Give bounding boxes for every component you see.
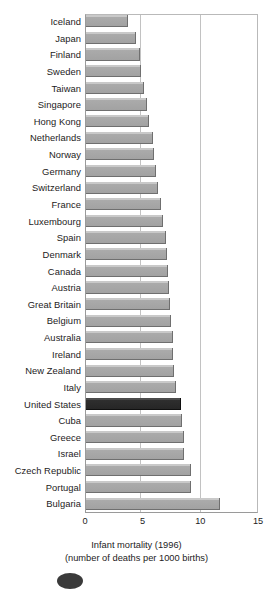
category-label: Portugal xyxy=(46,480,81,497)
bar-row: Netherlands xyxy=(0,130,273,147)
bar xyxy=(86,198,161,210)
bar-rows: IcelandJapanFinlandSwedenTaiwanSingapore… xyxy=(0,14,273,513)
bar xyxy=(86,82,144,94)
bar xyxy=(86,331,173,343)
x-tick-15: 15 xyxy=(238,516,278,526)
category-label: Finland xyxy=(50,47,81,64)
bar xyxy=(86,464,191,476)
category-label: Sweden xyxy=(47,64,81,81)
category-label: Bulgaria xyxy=(46,496,81,513)
bar xyxy=(86,215,163,227)
category-label: Iceland xyxy=(50,14,81,31)
bar-row: Australia xyxy=(0,330,273,347)
category-label: Australia xyxy=(44,330,81,347)
bar-row: Czech Republic xyxy=(0,463,273,480)
category-label: Singapore xyxy=(38,97,81,114)
caption-line-2: (number of deaths per 1000 births) xyxy=(0,552,273,565)
bar-row: Belgium xyxy=(0,313,273,330)
bar xyxy=(86,32,136,44)
bar-row: Israel xyxy=(0,446,273,463)
bar-row: Germany xyxy=(0,164,273,181)
category-label: France xyxy=(52,197,81,214)
category-label: Luxembourg xyxy=(28,214,81,231)
caption-line-1: Infant mortality (1996) xyxy=(0,539,273,552)
bar-highlighted xyxy=(86,398,181,410)
x-tick-5: 5 xyxy=(123,516,163,526)
bar-row: Iceland xyxy=(0,14,273,31)
bar xyxy=(86,281,169,293)
x-axis-tick-labels: 051015 xyxy=(0,516,273,530)
category-label: Italy xyxy=(64,380,81,397)
category-label: Czech Republic xyxy=(15,463,81,480)
x-tick-10: 10 xyxy=(180,516,220,526)
bar xyxy=(86,348,173,360)
bar xyxy=(86,148,154,160)
category-label: Taiwan xyxy=(52,81,81,98)
category-label: Canada xyxy=(48,264,81,281)
bar xyxy=(86,315,171,327)
bar xyxy=(86,115,149,127)
category-label: Greece xyxy=(50,430,81,447)
bar xyxy=(86,381,176,393)
bar-row: Cuba xyxy=(0,413,273,430)
category-label: Spain xyxy=(57,230,81,247)
bar-row: Finland xyxy=(0,47,273,64)
category-label: Israel xyxy=(58,446,81,463)
bar-row: Canada xyxy=(0,264,273,281)
bar-row: Greece xyxy=(0,430,273,447)
bar xyxy=(86,298,170,310)
category-label: Netherlands xyxy=(30,130,81,147)
bar-row: Hong Kong xyxy=(0,114,273,131)
category-label: New Zealand xyxy=(25,363,81,380)
bar-row: Great Britain xyxy=(0,297,273,314)
category-label: Belgium xyxy=(47,313,81,330)
bar-row: Portugal xyxy=(0,480,273,497)
category-label: Ireland xyxy=(52,347,81,364)
bar-row: Ireland xyxy=(0,347,273,364)
bar-row: Spain xyxy=(0,230,273,247)
bar xyxy=(86,48,140,60)
category-label: Japan xyxy=(55,31,81,48)
category-label: Austria xyxy=(51,280,81,297)
bar-row: United States xyxy=(0,397,273,414)
category-label: Germany xyxy=(42,164,81,181)
bar-row: Switzerland xyxy=(0,180,273,197)
bar-row: Norway xyxy=(0,147,273,164)
bar xyxy=(86,365,174,377)
bar-row: Sweden xyxy=(0,64,273,81)
bar-row: New Zealand xyxy=(0,363,273,380)
bar-row: Luxembourg xyxy=(0,214,273,231)
bar xyxy=(86,414,182,426)
bar-row: Japan xyxy=(0,31,273,48)
bar-row: Austria xyxy=(0,280,273,297)
bar-row: Singapore xyxy=(0,97,273,114)
bar xyxy=(86,481,191,493)
bar xyxy=(86,165,156,177)
category-label: Cuba xyxy=(58,413,81,430)
category-label: United States xyxy=(24,397,81,414)
category-label: Switzerland xyxy=(32,180,81,197)
category-label: Great Britain xyxy=(28,297,81,314)
axis-caption: Infant mortality (1996) (number of death… xyxy=(0,539,273,564)
page-corner-mark xyxy=(57,573,83,589)
bar xyxy=(86,448,184,460)
category-label: Hong Kong xyxy=(34,114,81,131)
bar xyxy=(86,132,153,144)
bar xyxy=(86,431,184,443)
bar xyxy=(86,265,168,277)
bar xyxy=(86,248,167,260)
bar xyxy=(86,231,166,243)
bar-row: Bulgaria xyxy=(0,496,273,513)
bar-row: Taiwan xyxy=(0,81,273,98)
category-label: Norway xyxy=(49,147,81,164)
bar xyxy=(86,182,158,194)
x-tick-0: 0 xyxy=(65,516,105,526)
bar-row: France xyxy=(0,197,273,214)
category-label: Denmark xyxy=(43,247,81,264)
bar xyxy=(86,98,147,110)
bar xyxy=(86,498,220,510)
bar-row: Denmark xyxy=(0,247,273,264)
bar-row: Italy xyxy=(0,380,273,397)
bar xyxy=(86,65,141,77)
